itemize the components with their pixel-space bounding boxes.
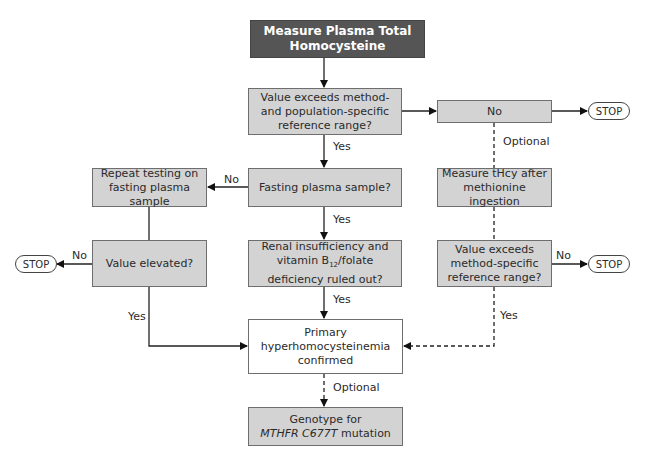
edge-label-optional: Optional bbox=[333, 381, 380, 394]
stop-label: STOP bbox=[23, 259, 49, 270]
confirmed-label: Primary hyperhomocysteinemia confirmed bbox=[253, 326, 398, 368]
stop-label: STOP bbox=[596, 106, 622, 117]
measure-methionine-node: Measure tHcy after methionine ingestion bbox=[437, 168, 552, 207]
measure-methionine-label: Measure tHcy after methionine ingestion bbox=[442, 167, 547, 209]
decision-method-specific: Value exceeds method-specific reference … bbox=[437, 240, 552, 287]
start-node: Measure Plasma Total Homocysteine bbox=[250, 20, 425, 58]
decision-exceeds-range-label: Value exceeds method- and population-spe… bbox=[253, 91, 397, 133]
edge-label-yes: Yes bbox=[333, 213, 351, 226]
genotype-node: Genotype forMTHFR C677T mutation bbox=[248, 407, 403, 446]
confirmed-node: Primary hyperhomocysteinemia confirmed bbox=[248, 319, 403, 374]
decision-exceeds-range: Value exceeds method- and population-spe… bbox=[248, 88, 402, 135]
no-node: No bbox=[437, 100, 552, 123]
repeat-testing-node: Repeat testing on fasting plasma sample bbox=[92, 168, 207, 207]
start-node-label: Measure Plasma Total Homocysteine bbox=[255, 24, 420, 54]
edge-label-no: No bbox=[224, 173, 239, 186]
edge-label-yes: Yes bbox=[333, 140, 351, 153]
no-node-label: No bbox=[487, 105, 502, 119]
decision-method-specific-label: Value exceeds method-specific reference … bbox=[442, 243, 547, 285]
edge-label-yes: Yes bbox=[333, 293, 351, 306]
edge-label-no: No bbox=[556, 249, 571, 262]
decision-fasting: Fasting plasma sample? bbox=[248, 168, 402, 207]
stop-label: STOP bbox=[596, 259, 622, 270]
edge-label-yes: Yes bbox=[128, 310, 146, 323]
decision-renal: Renal insufficiency and vitamin B12/fola… bbox=[248, 240, 402, 287]
genotype-label: Genotype forMTHFR C677T mutation bbox=[260, 413, 391, 441]
decision-fasting-label: Fasting plasma sample? bbox=[259, 181, 391, 195]
repeat-testing-label: Repeat testing on fasting plasma sample bbox=[97, 167, 202, 209]
decision-elevated: Value elevated? bbox=[92, 240, 207, 287]
edge-label-no: No bbox=[72, 249, 87, 262]
stop-terminal-left: STOP bbox=[15, 255, 57, 273]
stop-terminal-top: STOP bbox=[588, 102, 630, 120]
decision-elevated-label: Value elevated? bbox=[106, 257, 193, 271]
stop-terminal-right: STOP bbox=[588, 255, 630, 273]
edge-label-optional: Optional bbox=[503, 135, 550, 148]
decision-renal-label: Renal insufficiency and vitamin B12/fola… bbox=[253, 240, 397, 286]
connector-lines bbox=[0, 0, 646, 460]
edge-label-yes: Yes bbox=[500, 309, 518, 322]
